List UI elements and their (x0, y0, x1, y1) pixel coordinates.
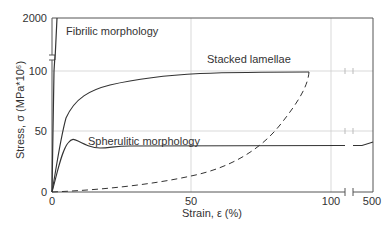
x-axis-label: Strain, ε (%) (182, 207, 242, 219)
annotation-spherulitic: Spherulitic morphology (88, 135, 200, 147)
annotation-fibrilic: Fibrilic morphology (66, 25, 159, 37)
y-tick-100: 100 (29, 65, 47, 77)
stress-strain-chart: Fibrilic morphology Stacked lamellae Sph… (0, 0, 391, 228)
series-stacked-lamellae-dashed (52, 72, 309, 192)
x-tick-500: 500 (363, 195, 381, 207)
y-axis-label: Stress, σ (MPa*10⁶) (14, 61, 26, 159)
x-tick-50: 50 (185, 195, 197, 207)
annotation-stacked-lamellae: Stacked lamellae (207, 53, 291, 65)
series-stacked-lamellae (52, 72, 309, 192)
series-spherulitic (52, 139, 373, 192)
plot-frame (49, 18, 373, 196)
y-tick-0: 0 (41, 186, 47, 198)
x-tick-100: 100 (322, 195, 340, 207)
y-tick-50: 50 (35, 125, 47, 137)
y-tick-2000: 2000 (23, 12, 47, 24)
x-tick-0: 0 (49, 195, 55, 207)
grid (52, 18, 373, 192)
